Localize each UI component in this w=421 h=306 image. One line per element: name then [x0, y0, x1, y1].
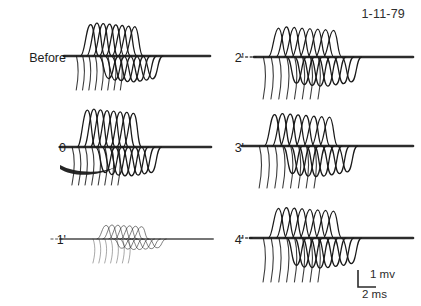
trace-area-3min [240, 104, 415, 199]
panel-0: 0 [0, 104, 210, 199]
electrophysiology-figure: 1-11-79 Before 2' 0 3' 1' 4' [0, 0, 421, 306]
trace-svg-2min [240, 14, 415, 104]
panel-2min: 2' [210, 14, 421, 104]
trace-area-1min [50, 196, 215, 291]
trace-area-0 [58, 104, 213, 199]
panel-label-before: Before [14, 52, 66, 65]
scalebar-vertical-label: 1 mv [370, 268, 395, 280]
trace-svg-0 [58, 104, 213, 199]
panel-before: Before [0, 14, 210, 104]
trace-svg-1min [50, 196, 215, 291]
trace-area-before [62, 14, 212, 104]
trace-svg-before [62, 14, 212, 104]
scalebar-horizontal-label: 2 ms [362, 288, 387, 300]
trace-svg-3min [240, 104, 415, 199]
panel-3min: 3' [210, 104, 421, 199]
trace-area-2min [240, 14, 415, 104]
panel-1min: 1' [0, 196, 210, 291]
